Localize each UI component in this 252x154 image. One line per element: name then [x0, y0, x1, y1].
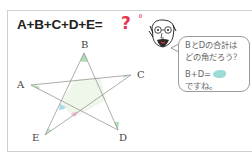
angle-mark-b — [80, 53, 88, 62]
hint-line-3-row: B+D= — [185, 69, 249, 81]
vertex-label-a: A — [17, 79, 24, 90]
hint-line-1: BとDの合計は — [185, 40, 249, 52]
vertex-label-c: C — [137, 69, 145, 80]
vertex-label-b: B — [81, 39, 88, 50]
hint-speech-bubble: BとDの合計は どの角だろう？ B+D= ですね。 — [178, 36, 250, 92]
vertex-label-e: E — [32, 132, 39, 143]
angle-blob-icon — [213, 70, 226, 78]
hint-line-2: どの角だろう？ — [185, 52, 249, 64]
hint-line-3: B+D= — [185, 69, 211, 79]
vertex-label-d: D — [119, 132, 127, 143]
hint-line-4: ですね。 — [185, 81, 249, 93]
